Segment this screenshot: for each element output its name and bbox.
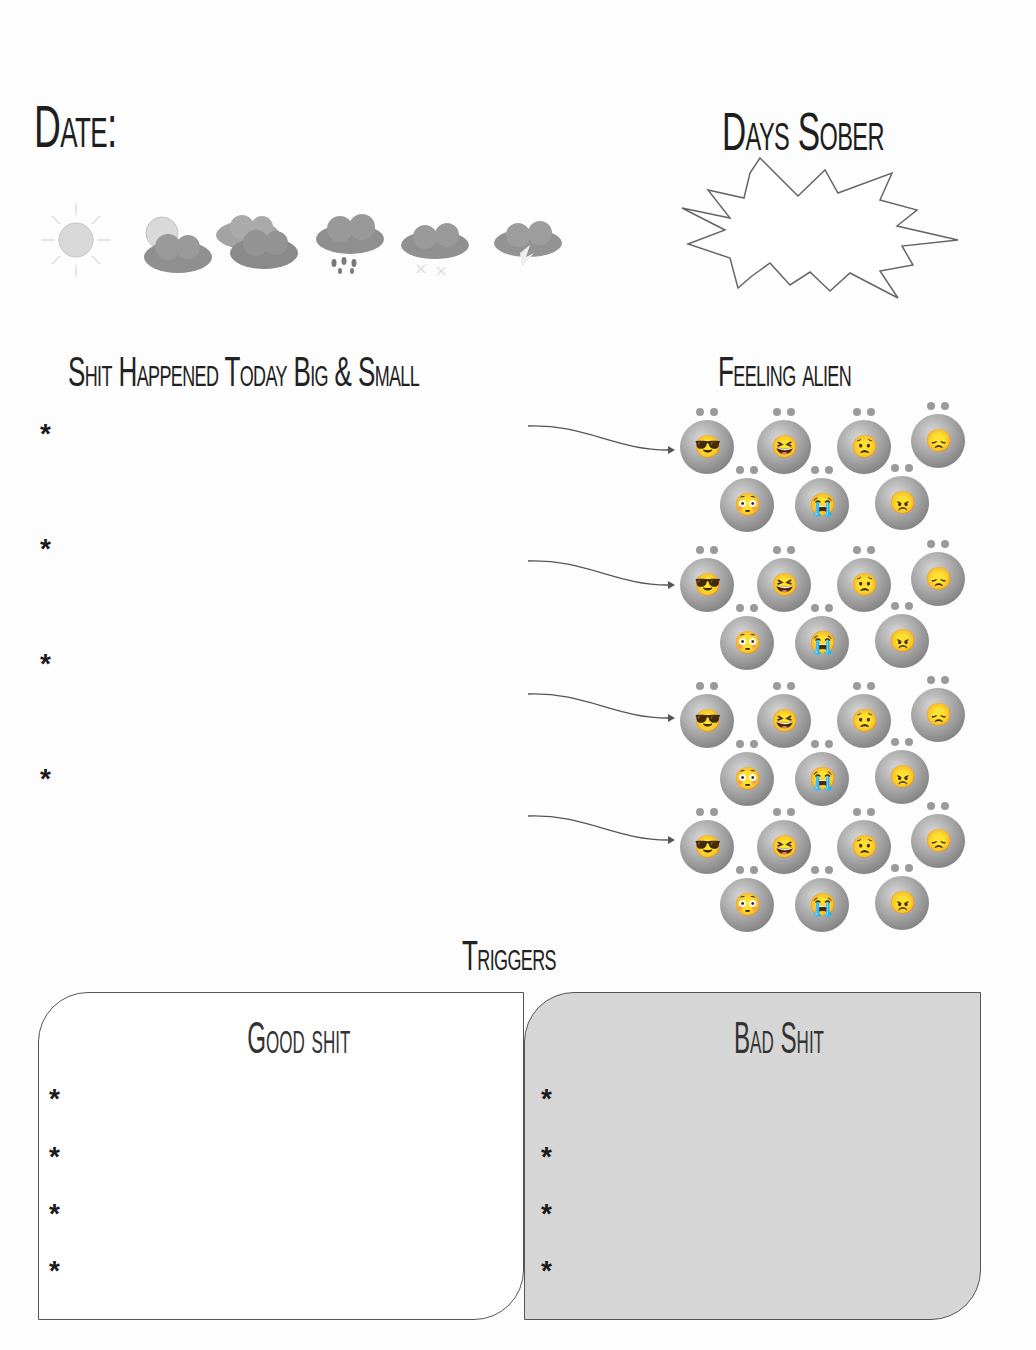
alien-shocked-icon[interactable]: 😳 [720,478,774,532]
alien-sad-icon[interactable]: 😞 [911,814,965,868]
alien-crying-icon[interactable]: 😭 [795,478,849,532]
alien-cool-icon[interactable]: 😎 [680,820,734,874]
alien-shocked-icon[interactable]: 😳 [720,878,774,932]
arrow-icon [525,688,675,728]
bad-bullet-2: * [541,1143,552,1171]
bad-bullet-3: * [541,1200,552,1228]
alien-sad-icon[interactable]: 😞 [911,414,965,468]
thunderstorm-icon[interactable] [490,195,570,285]
alien-cool-icon[interactable]: 😎 [680,558,734,612]
alien-angry-icon[interactable]: 😠 [875,876,929,930]
event-bullet-2: * [40,535,51,563]
alien-cool-icon[interactable]: 😎 [680,694,734,748]
snow-icon[interactable] [397,195,477,285]
alien-laughing-icon[interactable]: 😆 [757,558,811,612]
good-bullet-1: * [49,1085,60,1113]
bad-triggers-box[interactable]: Bad Shit * * * * [524,992,981,1320]
events-title: Shit Happened Today Big & Small [68,348,419,396]
alien-laughing-icon[interactable]: 😆 [757,420,811,474]
good-bullet-4: * [49,1257,60,1285]
alien-angry-icon[interactable]: 😠 [875,476,929,530]
alien-shocked-icon[interactable]: 😳 [720,752,774,806]
bad-bullet-4: * [541,1257,552,1285]
alien-crying-icon[interactable]: 😭 [795,752,849,806]
triggers-title: Triggers [462,932,556,980]
event-bullet-3: * [40,650,51,678]
days-sober-starburst[interactable] [680,148,965,308]
alien-sad-icon[interactable]: 😞 [911,552,965,606]
alien-angry-icon[interactable]: 😠 [875,614,929,668]
alien-crying-icon[interactable]: 😭 [795,878,849,932]
rain-icon[interactable] [312,195,392,285]
bad-triggers-title: Bad Shit [734,1013,824,1063]
cloudy-icon[interactable] [212,195,302,285]
alien-angry-icon[interactable]: 😠 [875,750,929,804]
feelings-row-3: 😎 😆 😟 😞 😳 😭 😠 [675,686,975,806]
event-bullet-1: * [40,420,51,448]
alien-shocked-icon[interactable]: 😳 [720,616,774,670]
arrow-icon [525,420,675,460]
feelings-title: Feeling alien [718,348,851,396]
alien-cool-icon[interactable]: 😎 [680,420,734,474]
feelings-row-2: 😎 😆 😟 😞 😳 😭 😠 [675,550,975,670]
alien-laughing-icon[interactable]: 😆 [757,694,811,748]
alien-sad-icon[interactable]: 😞 [911,688,965,742]
feelings-row-4: 😎 😆 😟 😞 😳 😭 😠 [675,812,975,932]
partly-cloudy-icon[interactable] [130,195,220,285]
alien-worried-icon[interactable]: 😟 [837,558,891,612]
alien-laughing-icon[interactable]: 😆 [757,820,811,874]
event-bullet-4: * [40,765,51,793]
feelings-row-1: 😎 😆 😟 😞 😳 😭 😠 [675,412,975,532]
good-bullet-3: * [49,1200,60,1228]
alien-worried-icon[interactable]: 😟 [837,694,891,748]
arrow-icon [525,810,675,850]
arrow-icon [525,555,675,595]
date-label: Date: [34,92,117,161]
alien-crying-icon[interactable]: 😭 [795,616,849,670]
alien-worried-icon[interactable]: 😟 [837,820,891,874]
good-bullet-2: * [49,1143,60,1171]
good-triggers-title: Good shit [247,1013,350,1063]
bad-bullet-1: * [541,1085,552,1113]
alien-worried-icon[interactable]: 😟 [837,420,891,474]
good-triggers-box[interactable]: Good shit * * * * [38,992,524,1320]
sunny-icon[interactable] [36,195,116,285]
